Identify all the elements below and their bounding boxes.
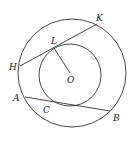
radius-LO <box>54 48 70 73</box>
geometry-diagram: H K L O A C B <box>0 0 133 144</box>
label-K: K <box>95 13 104 23</box>
label-H: H <box>8 62 17 72</box>
label-A: A <box>12 93 20 103</box>
label-C: C <box>43 105 50 115</box>
chord-AB <box>25 97 110 111</box>
label-B: B <box>112 113 120 123</box>
chord-HK <box>20 24 97 66</box>
label-L: L <box>50 36 57 46</box>
label-O: O <box>67 75 75 85</box>
